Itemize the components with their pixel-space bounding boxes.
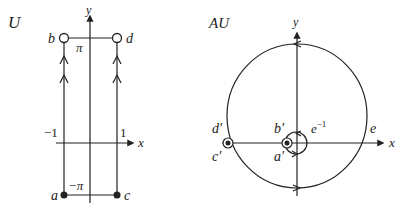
panel-title-U: U xyxy=(8,13,22,32)
panel-title-AU: AU xyxy=(208,15,230,31)
y-axis-label: y xyxy=(85,3,92,17)
point-b-label: b xyxy=(48,31,55,46)
point-b-open xyxy=(60,34,69,43)
point-e-label: e xyxy=(370,121,376,136)
point-a-filled xyxy=(61,192,68,199)
diagram-canvas: U y x −1 1 π −π b d a c AU xyxy=(0,0,414,213)
inner-radius-label: e−1 xyxy=(311,119,326,136)
left-panel-U: U y x −1 1 π −π b d a c xyxy=(8,3,144,203)
x-axis-label: x xyxy=(388,135,395,150)
point-c-filled xyxy=(114,192,121,199)
tick-one: 1 xyxy=(120,125,127,140)
point-c-prime-label: c′ xyxy=(212,149,222,164)
point-d-open xyxy=(113,34,122,43)
label-pi: π xyxy=(76,40,83,55)
x-axis-label: x xyxy=(137,135,144,150)
point-a-prime-label: a′ xyxy=(274,149,285,164)
point-b-prime-label: b′ xyxy=(274,121,285,136)
point-d-label: d xyxy=(126,31,134,46)
right-panel-AU: AU y x d′ c′ b′ a′ e−1 e xyxy=(208,15,395,196)
point-a-b-prime-dot xyxy=(285,141,290,146)
point-a-label: a xyxy=(51,188,58,203)
point-c-label: c xyxy=(124,188,131,203)
tick-minus-one: −1 xyxy=(44,125,58,140)
point-c-d-prime-dot xyxy=(226,141,231,146)
y-axis-label: y xyxy=(292,15,299,29)
label-minus-pi: −π xyxy=(68,178,84,193)
point-d-prime-label: d′ xyxy=(212,121,223,136)
